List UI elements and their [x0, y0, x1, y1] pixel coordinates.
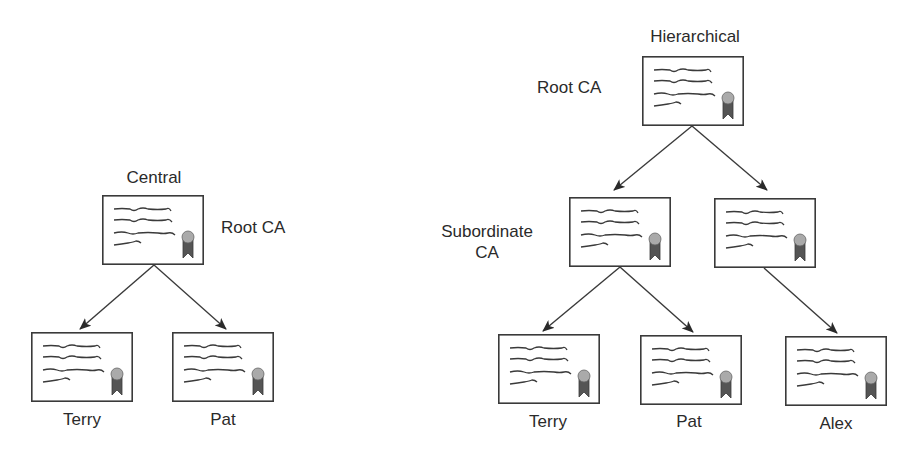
hier-leaf-terry-label: Terry	[529, 412, 567, 432]
hierarchical-title: Hierarchical	[650, 27, 740, 47]
certificate-icon-hier-pat	[641, 336, 741, 404]
arrow-hier-root-to-sub-left	[614, 126, 692, 190]
certificate-icon-central-root	[103, 196, 203, 264]
arrow-central-root-to-pat	[154, 265, 226, 329]
central-leaf-terry-label: Terry	[63, 410, 101, 430]
hier-leaf-pat-label: Pat	[676, 412, 702, 432]
certificate-icon-hier-terry	[499, 335, 599, 403]
certificate-icon-central-terry	[32, 333, 132, 401]
hier-leaf-alex-label: Alex	[819, 414, 852, 434]
arrow-sub-left-to-pat	[620, 267, 693, 332]
hierarchical-root-ca-label: Root CA	[537, 78, 601, 98]
arrow-hier-root-to-sub-right	[692, 126, 767, 190]
central-root-ca-label: Root CA	[221, 218, 285, 238]
central-title: Central	[127, 168, 182, 188]
arrow-sub-right-to-alex	[764, 268, 837, 333]
certificate-icon-central-pat	[173, 333, 273, 401]
certificate-icon-hier-sub-left	[570, 198, 670, 266]
arrow-central-root-to-terry	[80, 265, 154, 329]
certificate-icon-hier-sub-right	[715, 199, 815, 267]
central-leaf-pat-label: Pat	[210, 410, 236, 430]
certificate-icon-hier-root	[643, 57, 743, 125]
subordinate-ca-label-line2: CA	[475, 243, 499, 263]
arrow-sub-left-to-terry	[543, 267, 620, 331]
certificate-icon-hier-alex	[786, 337, 886, 405]
subordinate-ca-label-line1: Subordinate	[441, 222, 533, 242]
